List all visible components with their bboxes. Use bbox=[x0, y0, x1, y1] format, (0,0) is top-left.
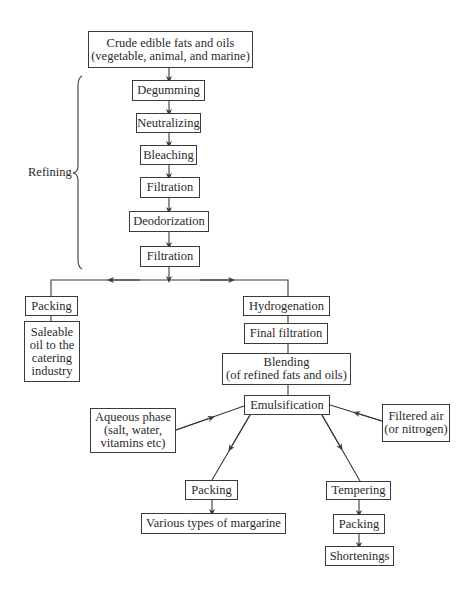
hydrogenation-node: Hydrogenation bbox=[243, 296, 330, 316]
final-filtration-node: Final filtration bbox=[244, 323, 328, 344]
emulsification-node: Emulsification bbox=[244, 395, 330, 415]
bleaching-node: Bleaching bbox=[140, 145, 197, 165]
refining-group-label: Refining bbox=[28, 165, 72, 180]
degumming-node: Degumming bbox=[132, 80, 205, 101]
filtration-node-2: Filtration bbox=[140, 246, 200, 267]
saleable-oil-node: Saleable oil to the catering industry bbox=[24, 321, 80, 382]
margarine-node: Various types of margarine bbox=[141, 513, 286, 534]
packing-shortening-node: Packing bbox=[333, 514, 385, 534]
packing-margarine-node: Packing bbox=[185, 480, 238, 500]
neutralizing-node: Neutralizing bbox=[136, 113, 201, 133]
aqueous-phase-node: Aqueous phase (salt, water, vitamins etc… bbox=[90, 408, 176, 453]
deodorization-node: Deodorization bbox=[129, 211, 209, 232]
filtered-air-node: Filtered air (or nitrogen) bbox=[382, 404, 450, 442]
shortenings-node: Shortenings bbox=[325, 546, 394, 566]
crude-fats-oils-node: Crude edible fats and oils (vegetable, a… bbox=[88, 31, 253, 68]
filtration-node-1: Filtration bbox=[140, 177, 200, 198]
packing-oil-node: Packing bbox=[25, 296, 78, 316]
tempering-node: Tempering bbox=[326, 481, 391, 500]
blending-node: Blending (of refined fats and oils) bbox=[222, 353, 351, 385]
